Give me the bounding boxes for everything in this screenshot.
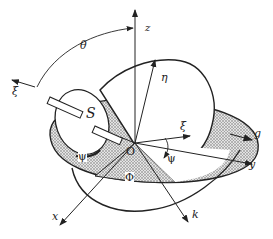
- theta-label: θ: [80, 40, 87, 51]
- g-label: g: [254, 128, 261, 139]
- xi-left-label: ξ: [12, 86, 18, 97]
- psi-left-label: ψ: [78, 151, 87, 162]
- S-label: S: [86, 106, 96, 120]
- gyroscope-diagram: θ ξ z η S ξ g y ψ ψ Φ O x k: [0, 0, 273, 239]
- k-label: k: [192, 209, 199, 220]
- xi-right-label: ξ: [180, 121, 186, 132]
- phi-label: Φ: [125, 172, 134, 183]
- z-label: z: [145, 23, 150, 33]
- origin-label: O: [126, 146, 135, 157]
- x-label: x: [52, 211, 58, 222]
- eta-label: η: [161, 72, 168, 83]
- y-label: y: [249, 159, 255, 170]
- diagram-drawing: [0, 0, 273, 239]
- psi-right-label: ψ: [167, 153, 176, 164]
